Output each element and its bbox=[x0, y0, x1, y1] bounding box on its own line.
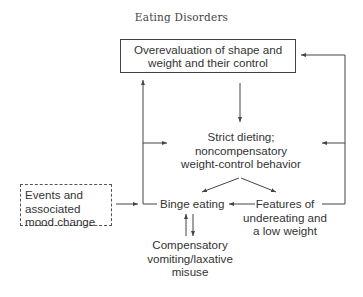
node-events-line-3: mood change bbox=[25, 215, 111, 229]
arrow-dieting-to-binge bbox=[202, 178, 239, 192]
node-strict-dieting-line-3: weight-control behavior bbox=[170, 157, 312, 171]
node-strict-dieting: Strict dieting; noncompensatory weight-c… bbox=[170, 130, 312, 171]
node-overevaluation: Overevaluation of shape and weight and t… bbox=[120, 39, 296, 73]
arrow-dieting-to-features bbox=[241, 178, 276, 192]
node-features-line-3: a low weight bbox=[240, 224, 330, 238]
node-features-line-2: undereating and bbox=[240, 211, 330, 225]
node-binge-eating: Binge eating bbox=[160, 197, 224, 211]
node-compensatory-line-1: Compensatory bbox=[140, 238, 240, 252]
node-overevaluation-line-2: weight and their control bbox=[121, 56, 295, 70]
node-binge-eating-line-1: Binge eating bbox=[160, 197, 224, 211]
diagram-canvas: Eating Disorders bbox=[0, 0, 363, 297]
node-strict-dieting-line-1: Strict dieting; bbox=[170, 130, 312, 144]
arrow-binge-to-overevaluation bbox=[143, 80, 157, 204]
node-compensatory: Compensatory vomiting/laxative misuse bbox=[140, 238, 240, 279]
node-events-line-1: Events and bbox=[25, 188, 111, 202]
node-events-line-2: associated bbox=[25, 202, 111, 216]
node-features: Features of undereating and a low weight bbox=[240, 197, 330, 238]
node-compensatory-line-2: vomiting/laxative bbox=[140, 252, 240, 266]
node-features-line-1: Features of bbox=[240, 197, 330, 211]
node-compensatory-line-3: misuse bbox=[140, 265, 240, 279]
node-events: Events and associated mood change bbox=[20, 184, 112, 226]
node-strict-dieting-line-2: noncompensatory bbox=[170, 144, 312, 158]
node-overevaluation-line-1: Overevaluation of shape and bbox=[121, 43, 295, 57]
